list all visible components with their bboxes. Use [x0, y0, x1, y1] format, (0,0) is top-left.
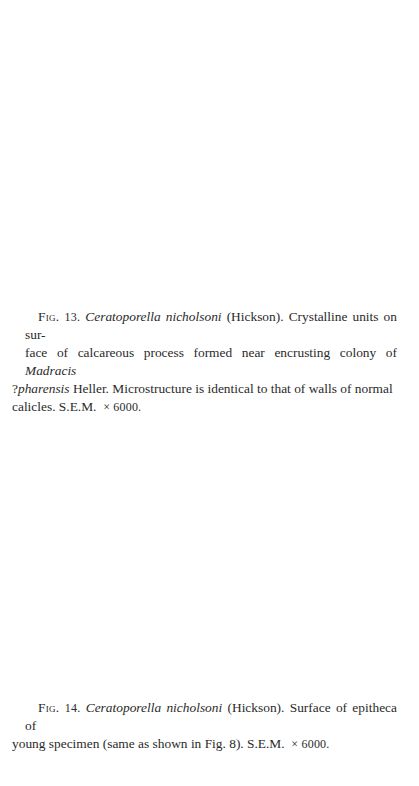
figure-13-text-line2: face of calcareous process formed near e…	[25, 345, 397, 360]
figure-13-number: 13.	[65, 310, 81, 324]
figure-14-species: Ceratoporella nicholsoni	[86, 700, 222, 715]
figure-13-taxon-epithet: pharensis	[18, 381, 70, 396]
figure-13-magnification: × 6000.	[103, 400, 141, 414]
figure-13-taxon-genus: Madracis	[25, 363, 76, 378]
figure-14-number: 14.	[65, 701, 81, 715]
figure-14-caption: Fig. 14. Ceratoporella nicholsoni (Hicks…	[25, 699, 397, 753]
figure-14-text-line2: young specimen (same as shown in Fig. 8)…	[12, 736, 288, 751]
figure-14-magnification: × 6000.	[291, 737, 329, 751]
figure-13-text-line4: calicles. S.E.M.	[12, 399, 100, 414]
figure-14-label: Fig.	[38, 700, 60, 715]
figure-13-caption: Fig. 13. Ceratoporella nicholsoni (Hicks…	[25, 308, 397, 416]
figure-13-species: Ceratoporella nicholsoni	[85, 309, 221, 324]
figure-13-text-line3: Heller. Microstructure is identical to t…	[70, 381, 393, 396]
page: Fig. 13. Ceratoporella nicholsoni (Hicks…	[0, 0, 419, 786]
figure-13-label: Fig.	[38, 309, 60, 324]
